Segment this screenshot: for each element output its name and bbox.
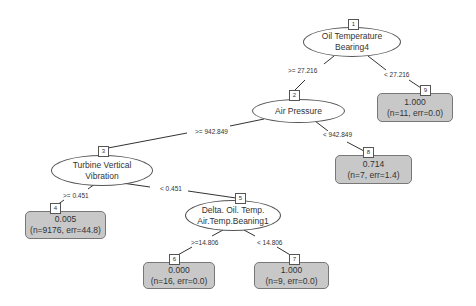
node-5-label-line2: Air.Temp.Beaning1: [197, 216, 268, 227]
leaf-6-value: 0.000: [168, 265, 189, 276]
node-2-label: Air Pressure: [275, 106, 322, 117]
leaf-7-stats: (n=9, err=0.0): [266, 276, 318, 287]
edge-label-2-3: >= 942.849: [194, 128, 229, 135]
leaf-node-9: 1.000 (n=11, err=0.0): [377, 93, 453, 122]
leaf-9-id: 9: [420, 85, 431, 96]
node-3-label-line1: Turbine Vertical: [73, 160, 132, 171]
split-node-3: Turbine Vertical Vibration: [51, 155, 153, 186]
leaf-6-id: 6: [169, 254, 180, 265]
node-1-label-line1: Oil Temperature: [322, 31, 382, 42]
node-1-id: 1: [348, 19, 359, 30]
leaf-7-value: 1.000: [281, 265, 302, 276]
edge-label-2-8: < 942.849: [322, 131, 353, 138]
leaf-node-6: 0.000 (n=16, err=0.0): [143, 262, 215, 289]
edge-label-1-9: < 27.216: [383, 71, 410, 78]
edge-label-1-2: >= 27.216: [287, 67, 318, 74]
leaf-8-id: 8: [363, 147, 374, 158]
node-2-id: 2: [289, 90, 300, 101]
leaf-4-stats: (n=9176, err=44.8): [30, 225, 101, 236]
leaf-9-value: 1.000: [404, 97, 425, 108]
node-5-id: 5: [235, 193, 246, 204]
leaf-node-4: 0.005 (n=9176, err=44.8): [25, 211, 106, 239]
node-5-label-line1: Delta. Oil. Temp.: [202, 205, 265, 216]
leaf-4-value: 0.005: [55, 214, 76, 225]
split-node-1: Oil Temperature Bearing4: [303, 27, 401, 57]
leaf-6-stats: (n=16, err=0.0): [151, 276, 208, 287]
node-3-label-line2: Vibration: [85, 171, 118, 182]
leaf-node-8: 0.714 (n=7, err=1.4): [335, 155, 412, 184]
leaf-9-stats: (n=11, err=0.0): [387, 108, 443, 119]
leaf-node-7: 1.000 (n=9, err=0.0): [254, 262, 329, 289]
node-1-label-line2: Bearing4: [335, 42, 369, 53]
edge-label-3-5: < 0.451: [159, 185, 183, 192]
split-node-5: Delta. Oil. Temp. Air.Temp.Beaning1: [185, 200, 281, 231]
edge-label-5-6: >=14.806: [190, 239, 219, 246]
leaf-7-id: 7: [289, 254, 300, 265]
edge-label-3-4: >= 0.451: [62, 192, 90, 199]
tree-edges: [0, 0, 476, 306]
edge-label-5-7: < 14.806: [256, 239, 283, 246]
leaf-8-stats: (n=7, err=1.4): [348, 170, 400, 181]
split-node-2: Air Pressure: [252, 99, 345, 123]
leaf-4-id: 4: [50, 203, 61, 214]
leaf-8-value: 0.714: [363, 159, 384, 170]
node-3-id: 3: [98, 146, 109, 157]
